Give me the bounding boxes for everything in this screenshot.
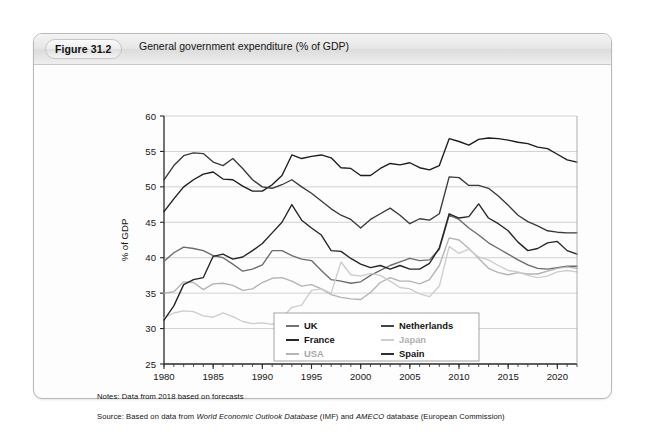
x-tick-label: 2015 [497,371,518,382]
figure-box: Figure 31.2 General government expenditu… [33,33,612,399]
x-tick-label: 2010 [448,371,469,382]
x-tick-label: 2000 [350,371,371,382]
y-axis-title: % of GDP [119,219,130,262]
source-post: database (European Commission) [384,412,504,421]
x-tick-label: 1980 [153,371,174,382]
series-line-usa [164,238,577,300]
source-mid: (IMF) and [318,412,356,421]
source-italic-ameco: AMECO [356,412,384,421]
plot-area: 2530354045505560198019851990199520002005… [34,65,611,400]
source-label: Source: [97,412,124,421]
legend: UKNetherlandsFranceJapanUSASpain [274,313,479,361]
x-tick-label: 2020 [547,371,568,382]
x-tick-label: 2005 [399,371,420,382]
x-tick-label: 1995 [301,371,322,382]
source-italic-weo: World Economic Outlook Database [196,412,317,421]
x-tick-label: 1990 [252,371,273,382]
legend-label-france: France [304,334,335,345]
y-tick-label: 45 [145,217,156,228]
line-chart: 2530354045505560198019851990199520002005… [34,65,613,400]
y-tick-label: 25 [145,359,156,370]
notes-text: Data from 2018 based on forecasts [120,392,244,401]
legend-label-spain: Spain [399,348,425,359]
figure-number-badge: Figure 31.2 [45,39,122,59]
series-line-spain [164,204,577,320]
figure-header: Figure 31.2 General government expenditu… [34,34,611,65]
y-tick-label: 30 [145,323,156,334]
legend-label-netherlands: Netherlands [399,320,453,331]
figure-caption: General government expenditure (% of GDP… [139,40,349,52]
y-tick-label: 35 [145,288,156,299]
legend-label-japan: Japan [399,334,426,345]
series-line-netherlands [164,153,577,233]
y-tick-label: 55 [145,146,156,157]
legend-label-usa: USA [304,348,324,359]
source-pre: Based on data from [124,412,197,421]
y-tick-label: 40 [145,252,156,263]
notes-label: Notes: [97,392,120,401]
x-tick-label: 1985 [202,371,223,382]
notes-row: Notes: Data from 2018 based on forecasts [97,392,244,401]
y-tick-label: 50 [145,181,156,192]
y-tick-label: 60 [145,111,156,122]
legend-label-uk: UK [304,320,318,331]
source-row: Source: Based on data from World Economi… [97,412,505,421]
series-line-france [164,138,577,212]
